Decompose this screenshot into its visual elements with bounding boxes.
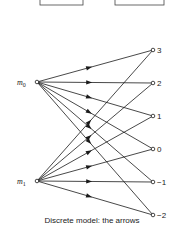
arrow-icon: [86, 179, 92, 183]
edge-m0-o1: [37, 82, 153, 116]
arrow-icon: [86, 164, 93, 170]
arrow-icon: [86, 65, 93, 71]
arrow-icon: [86, 109, 93, 116]
input-node-m0: [35, 80, 39, 84]
output-label-om1: −1: [157, 178, 167, 187]
output-node-o0: [151, 147, 155, 151]
edge-m0-o3: [37, 50, 153, 82]
edge-m1-o1: [37, 116, 153, 181]
edge-m0-o2: [37, 82, 153, 83]
output-label-o2: 2: [157, 79, 162, 88]
arrow-icon: [86, 193, 93, 199]
arrow-icon: [86, 148, 93, 155]
output-label-o0: 0: [157, 145, 162, 154]
output-node-om1: [151, 180, 155, 184]
input-label-m1: m1: [17, 177, 26, 187]
output-node-o2: [151, 81, 155, 85]
edge-m1-om2: [37, 181, 153, 215]
edge-m1-om1: [37, 181, 153, 182]
top-boxes: [40, 0, 164, 5]
input-label-m0: m0: [17, 78, 26, 88]
channel-diagram: m0m13210−1−2: [0, 0, 184, 228]
nodes: m0m13210−1−2: [17, 46, 167, 220]
edge-m1-o2: [37, 83, 153, 181]
edge-m1-o3: [37, 50, 153, 181]
edge-m1-o0: [37, 149, 153, 181]
output-node-o1: [151, 114, 155, 118]
arrow-icon: [86, 80, 92, 84]
top-box-1: [115, 0, 164, 5]
output-label-o1: 1: [157, 112, 162, 121]
transition-edges: [37, 50, 153, 215]
top-box-0: [40, 0, 83, 5]
input-node-m1: [35, 179, 39, 183]
arrow-icon: [86, 94, 93, 100]
output-label-o3: 3: [157, 46, 162, 55]
output-node-o3: [151, 48, 155, 52]
figure-caption: Discrete model: the arrows: [0, 216, 184, 225]
